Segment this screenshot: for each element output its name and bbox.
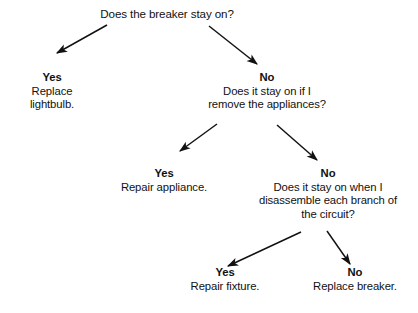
node-body-text: Does it stay on if I remove the applianc… [208,85,326,112]
node-answer-label: Yes [191,266,260,280]
node-no-replace-breaker: No Replace breaker. [313,266,397,293]
node-yes-repair-appliance: Yes Repair appliance. [121,167,207,194]
node-yes-repair-fixture: Yes Repair fixture. [191,266,260,293]
node-answer-label: No [259,167,397,181]
node-root-question: Does the breaker stay on? [100,7,233,21]
arrow-no1-to-no2 [277,125,317,160]
node-body-text: Replace breaker. [313,280,397,294]
arrow-root-to-no1 [209,26,257,64]
node-root-text: Does the breaker stay on? [100,7,233,21]
node-yes-replace-lightbulb: Yes Replace lightbulb. [30,71,74,112]
node-answer-label: No [208,71,326,85]
arrow-root-to-yes1 [57,25,107,53]
node-no-remove-appliances-question: No Does it stay on if I remove the appli… [208,71,326,112]
node-answer-label: Yes [121,167,207,181]
node-body-text: Repair fixture. [191,280,260,294]
node-body-text: Replace lightbulb. [30,85,74,112]
node-body-text: Does it stay on when I disassemble each … [259,181,397,222]
node-answer-label: Yes [30,71,74,85]
arrow-no2-to-no3 [327,231,350,264]
node-no-disassemble-branch-question: No Does it stay on when I disassemble ea… [259,167,397,221]
arrow-no2-to-yes3 [228,232,301,266]
flowchart-canvas: Does the breaker stay on? Yes Replace li… [0,0,418,313]
node-body-text: Repair appliance. [121,181,207,195]
node-answer-label: No [313,266,397,280]
arrow-no1-to-yes2 [180,124,217,151]
